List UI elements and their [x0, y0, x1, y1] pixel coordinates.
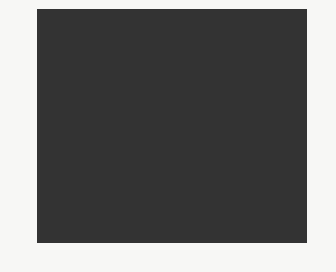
knitting-chart-grid [37, 9, 307, 243]
